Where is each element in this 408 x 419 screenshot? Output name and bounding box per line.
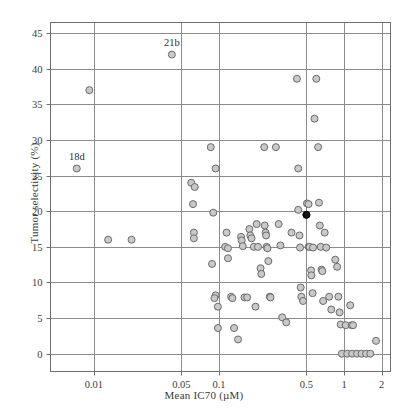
data-point-marker [210,209,217,216]
data-point-marker [207,144,214,151]
data-point-marker [212,165,219,172]
data-point-marker [214,325,221,332]
data-point-marker [315,199,322,206]
data-point-marker [334,263,341,270]
data-point-marker [313,75,320,82]
data-point-marker [319,268,326,275]
data-point-marker [261,144,268,151]
data-point-marker [320,297,327,304]
data-point-marker [229,295,236,302]
data-point-marker [300,297,307,304]
x-tick-label: 2 [379,379,384,390]
y-tick-label: 5 [13,313,43,324]
plot-frame [51,23,391,372]
data-point-marker [264,245,271,252]
data-point-marker [272,144,279,151]
data-point-marker [253,221,260,228]
y-tick-label: 0 [13,348,43,359]
x-axis-title: Mean IC70 (µM) [0,389,408,401]
data-point-marker [224,245,231,252]
data-point-marker [261,222,268,229]
data-point-marker [297,244,304,251]
data-point-marker [246,226,253,233]
scatter-chart-figure: 0.010.050.10.512 051015202530354045 21b1… [0,0,408,419]
data-point-marker [326,293,333,300]
data-point-marker [267,294,274,301]
data-point-marker [309,290,316,297]
data-point-marker [373,337,380,344]
tick-marks [47,34,383,376]
data-point-marker [263,232,270,239]
data-point-marker [235,336,242,343]
y-tick-label: 40 [13,63,43,74]
data-point-marker [310,244,317,251]
data-point-marker [211,295,218,302]
data-point-marker [328,306,335,313]
data-point-marker [86,87,93,94]
data-point-marker [295,206,302,213]
data-point-marker [332,256,339,263]
data-point-marker [252,303,259,310]
data-point-marker [295,165,302,172]
x-tick-label: 0.01 [85,379,103,390]
data-point-marker [265,258,272,265]
data-point-group [73,51,379,357]
data-point-marker [254,243,261,250]
data-point-marker [308,272,315,279]
data-point-marker [321,229,328,236]
data-point-marker [283,319,290,326]
data-point-marker [128,236,135,243]
data-point-marker [73,165,80,172]
data-point-marker [316,222,323,229]
data-point-marker [258,270,265,277]
data-point-marker [347,302,354,309]
data-point-marker [191,184,198,191]
data-point-marker [323,244,330,251]
point-annotation-label: 21b [164,37,180,48]
data-point-marker [248,235,255,242]
data-point-marker [239,243,246,250]
data-point-marker [214,303,221,310]
data-point-marker [315,144,322,151]
point-annotation-label: 18d [69,151,85,162]
data-point-marker [231,325,238,332]
data-point-marker [288,229,295,236]
data-point-marker [367,350,374,357]
data-point-marker [168,51,175,58]
x-tick-label: 0.05 [172,379,190,390]
data-point-marker [350,322,357,329]
data-point-marker [105,236,112,243]
plot-canvas [0,0,408,419]
data-point-marker [336,309,343,316]
y-tick-label: 45 [13,28,43,39]
data-point-marker [311,115,318,122]
data-point-marker [297,284,304,291]
y-axis-title: Tumor selectivity (%) [28,83,40,303]
data-point-marker [293,75,300,82]
grid-lines [51,23,391,372]
data-point-marker [296,232,303,239]
data-point-marker [224,255,231,262]
data-point-marker [209,260,216,267]
data-point-marker [244,294,251,301]
x-tick-label: 0.1 [212,379,225,390]
x-tick-label: 0.5 [300,379,313,390]
data-point-marker [223,229,230,236]
data-point-marker [190,235,197,242]
data-point-marker [275,221,282,228]
x-tick-label: 1 [341,379,346,390]
data-point-marker [277,242,284,249]
data-point-marker [305,201,312,208]
data-point-marker [190,201,197,208]
highlighted-data-point-marker [303,211,310,218]
data-point-marker [335,293,342,300]
